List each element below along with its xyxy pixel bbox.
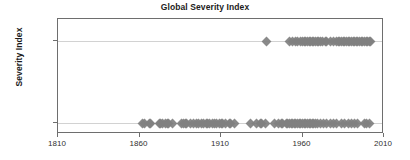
x-tick-label: 1810: [37, 139, 77, 148]
x-tick-mark: [139, 133, 140, 137]
x-tick-mark: [383, 133, 384, 137]
y-tick-mark: [53, 122, 57, 123]
x-tick-mark: [302, 133, 303, 137]
plot-area: [57, 18, 383, 133]
x-tick-mark: [220, 133, 221, 137]
page-title: Global Severity Index: [0, 2, 410, 12]
x-tick-label: 2010: [363, 139, 403, 148]
x-tick-label: 1860: [119, 139, 159, 148]
x-tick-label: 1960: [282, 139, 322, 148]
data-point-marker: [262, 36, 272, 46]
x-tick-mark: [57, 133, 58, 137]
chart-figure: Global Severity Index Severity Index <10…: [0, 0, 410, 160]
y-tick-mark: [53, 40, 57, 41]
y-axis-label: Severity Index: [14, 17, 24, 97]
x-tick-label: 1910: [200, 139, 240, 148]
